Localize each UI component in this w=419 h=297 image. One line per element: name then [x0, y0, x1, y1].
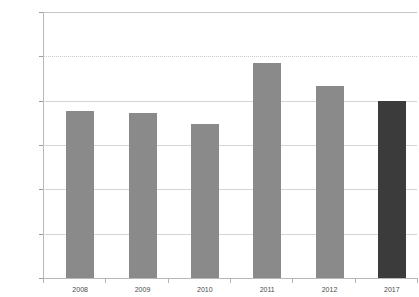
x-tick-mark — [105, 278, 106, 283]
bar-2009[interactable] — [129, 113, 157, 278]
bar-2017[interactable] — [378, 101, 406, 278]
chart-title — [0, 0, 419, 4]
x-tick-label-2008: 2008 — [72, 286, 88, 294]
bar-2011[interactable] — [253, 63, 281, 278]
x-tick-mark — [292, 278, 293, 283]
bar-2010[interactable] — [191, 124, 219, 278]
x-tick-label-2011: 2011 — [260, 286, 275, 294]
x-tick-mark — [43, 278, 44, 283]
x-tick-mark — [355, 278, 356, 283]
x-tick-mark — [230, 278, 231, 283]
x-tick-mark — [417, 278, 418, 283]
plot-area — [43, 12, 417, 278]
bar-2008[interactable] — [66, 111, 94, 278]
x-tick-label-2017: 2017 — [384, 286, 400, 294]
x-tick-label-2012: 2012 — [322, 286, 338, 294]
x-tick-mark — [168, 278, 169, 283]
bar-2012[interactable] — [316, 86, 344, 278]
x-tick-label-2009: 2009 — [135, 286, 151, 294]
x-tick-label-2010: 2010 — [197, 286, 213, 294]
bar-chart: $0$500$1,000$1,500$2,000$2,500$3,000 200… — [0, 0, 419, 297]
